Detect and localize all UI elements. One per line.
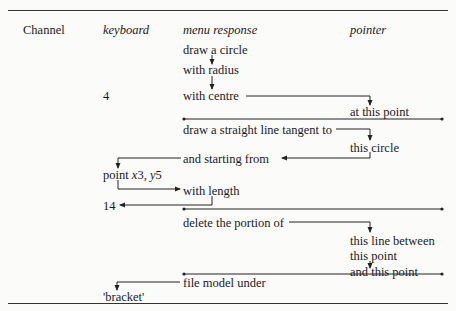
- flow-arrows: [0, 0, 456, 311]
